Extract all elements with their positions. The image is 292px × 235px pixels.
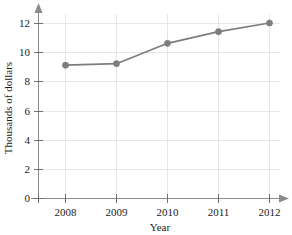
- y-tick-label-0: 0: [25, 192, 31, 204]
- data-point-2008: [62, 62, 68, 68]
- y-tick-label-12: 12: [19, 17, 30, 29]
- line-chart: 12 10 8 6 4 2 0 2008 2009 2010 2011 2012…: [0, 0, 292, 235]
- x-tick-label-2008: 2008: [55, 206, 78, 218]
- data-point-2011: [215, 29, 221, 35]
- x-tick-label-2010: 2010: [157, 206, 180, 218]
- data-point-2009: [113, 61, 119, 67]
- x-tick-label-2012: 2012: [259, 206, 281, 218]
- y-tick-label-8: 8: [25, 75, 31, 87]
- data-point-2010: [164, 40, 170, 46]
- y-tick-label-4: 4: [25, 134, 31, 146]
- y-tick-label-6: 6: [25, 105, 31, 117]
- data-point-2012: [266, 20, 272, 26]
- y-tick-label-2: 2: [25, 163, 31, 175]
- y-tick-label-10: 10: [19, 46, 31, 58]
- y-axis-title: Thousands of dollars: [2, 62, 14, 154]
- chart-background: [0, 0, 292, 235]
- x-tick-label-2011: 2011: [208, 206, 230, 218]
- x-tick-label-2009: 2009: [106, 206, 129, 218]
- chart-canvas: 12 10 8 6 4 2 0 2008 2009 2010 2011 2012…: [0, 0, 292, 235]
- x-axis-title: Year: [150, 221, 171, 233]
